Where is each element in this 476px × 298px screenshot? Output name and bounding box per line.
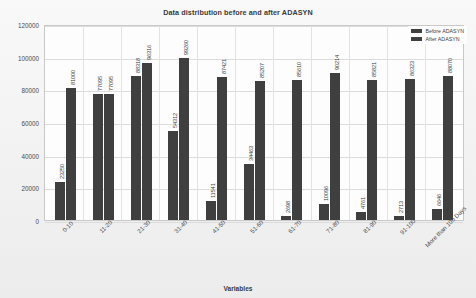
- bar-value-label: 85610: [296, 62, 302, 77]
- bar-group: 664688070: [423, 26, 461, 220]
- bar: 96316: [142, 63, 152, 220]
- legend-label: After ADASYN: [425, 36, 459, 42]
- x-axis-category: 91-100: [386, 222, 424, 274]
- bar-value-label: 77095: [107, 76, 113, 91]
- bar: 2698: [281, 216, 291, 220]
- page-background: Data distribution before and after ADASY…: [0, 0, 476, 298]
- bar: 88070: [443, 76, 453, 220]
- bar-value-label: 88070: [446, 58, 452, 73]
- y-axis-tick: 40000: [21, 152, 39, 159]
- x-axis-category: 71-80: [311, 222, 349, 274]
- bar-groups: 2325081000770957709588318963165431299260…: [45, 26, 463, 220]
- bar: 6646: [432, 209, 442, 220]
- bar-value-label: 85821: [371, 62, 377, 77]
- bar-value-label: 2713: [398, 201, 404, 213]
- bar-group: 3446385207: [235, 26, 273, 220]
- y-axis-tick: 20000: [21, 185, 39, 192]
- y-axis-tick: 80000: [21, 87, 39, 94]
- x-axis-category: More than 100 Days: [424, 222, 462, 274]
- bar-group: 271386323: [386, 26, 424, 220]
- bar: 10096: [319, 204, 329, 220]
- x-axis-category: 31-40: [159, 222, 197, 274]
- y-axis-tick: 120000: [18, 22, 39, 29]
- bar-group: 1154187421: [198, 26, 236, 220]
- legend-item[interactable]: After ADASYN: [411, 36, 464, 42]
- bar: 34463: [244, 164, 254, 220]
- chart-legend: Before ADASYNAfter ADASYN: [408, 26, 467, 44]
- bar: 54312: [168, 131, 178, 220]
- bar: 86323: [405, 79, 415, 220]
- bar-value-label: 85207: [258, 63, 264, 78]
- bar: 85207: [255, 81, 265, 220]
- bar: 77095: [93, 94, 103, 220]
- bar-value-label: 96316: [145, 45, 151, 60]
- x-axis-category: 81-90: [349, 222, 387, 274]
- bar: 23250: [55, 182, 65, 220]
- bar-value-label: 87421: [220, 59, 226, 74]
- bar-value-label: 54312: [172, 113, 178, 128]
- y-axis-tick: 100000: [18, 54, 39, 61]
- bar: 77095: [104, 94, 114, 220]
- bar: 81000: [66, 88, 76, 220]
- x-axis-tick-label: 0-10: [61, 220, 75, 234]
- bar-value-label: 77095: [96, 76, 102, 91]
- x-axis-title: Variables: [0, 285, 476, 292]
- x-axis-category: 0-10: [46, 222, 84, 274]
- y-axis-tick: 60000: [21, 120, 39, 127]
- x-axis-category: 21-30: [122, 222, 160, 274]
- bar-value-label: 6646: [435, 194, 441, 206]
- x-axis-category: 11-20: [84, 222, 122, 274]
- legend-item[interactable]: Before ADASYN: [411, 28, 464, 34]
- chart-title: Data distribution before and after ADASY…: [0, 8, 476, 17]
- x-axis-category: 51-60: [235, 222, 273, 274]
- bar-value-label: 99260: [183, 40, 189, 55]
- x-axis: 0-1011-2021-3031-4041-5051-6061-7071-808…: [44, 222, 464, 274]
- bar-value-label: 23250: [59, 164, 65, 179]
- bar-value-label: 11541: [209, 184, 215, 199]
- bar: 88318: [131, 76, 141, 220]
- plot-area: 2325081000770957709588318963165431299260…: [44, 25, 464, 221]
- legend-swatch-icon: [411, 29, 422, 33]
- bar-value-label: 88318: [134, 58, 140, 73]
- x-axis-category: 41-50: [197, 222, 235, 274]
- bar-value-label: 4761: [360, 197, 366, 209]
- y-axis: 120000100000800006000040000200000: [0, 25, 42, 221]
- bar: 85821: [367, 80, 377, 220]
- legend-swatch-icon: [411, 37, 422, 41]
- bar-group: 476185821: [348, 26, 386, 220]
- y-axis-tick: 0: [35, 218, 39, 225]
- bar-value-label: 34463: [247, 146, 253, 161]
- bar: 90214: [330, 73, 340, 220]
- legend-label: Before ADASYN: [425, 28, 464, 34]
- bar-value-label: 10096: [322, 185, 328, 200]
- bar-group: 269885610: [273, 26, 311, 220]
- bar-group: 1009690214: [310, 26, 348, 220]
- bar: 4761: [356, 212, 366, 220]
- bar: 85610: [292, 80, 302, 220]
- bar-group: 2325081000: [47, 26, 85, 220]
- bar-value-label: 81000: [70, 70, 76, 85]
- bar-group: 7709577095: [85, 26, 123, 220]
- bar-value-label: 2698: [285, 201, 291, 213]
- bar: 99260: [179, 58, 189, 220]
- chart-figure: Data distribution before and after ADASY…: [0, 0, 476, 298]
- bar-group: 5431299260: [160, 26, 198, 220]
- bar: 87421: [217, 77, 227, 220]
- bar-value-label: 90214: [333, 55, 339, 70]
- bar-group: 8831896316: [122, 26, 160, 220]
- bar: 11541: [206, 201, 216, 220]
- x-axis-category: 61-70: [273, 222, 311, 274]
- bar: 2713: [394, 216, 404, 220]
- bar-value-label: 86323: [409, 61, 415, 76]
